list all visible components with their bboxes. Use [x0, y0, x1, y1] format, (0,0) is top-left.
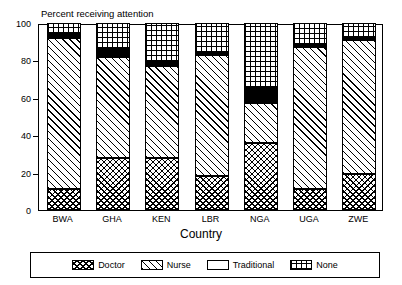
x-axis-title: Country	[0, 227, 402, 241]
y-tick-label: 80	[0, 57, 31, 66]
bar-segment-traditional	[47, 34, 81, 38]
chart-figure: Percent receiving attention 020406080100…	[0, 0, 402, 285]
bar-segment-traditional	[244, 88, 278, 103]
chart-legend: DoctorNurseTraditionalNone	[30, 252, 380, 278]
legend-label-nurse: Nurse	[167, 260, 191, 270]
bar-segment-doctor	[145, 158, 179, 210]
bar-segment-nurse	[293, 47, 327, 189]
bar-segment-traditional	[293, 45, 327, 47]
legend-swatch-none	[290, 260, 312, 270]
chart-title: Percent receiving attention	[41, 8, 153, 19]
bar-segment-nurse	[195, 55, 229, 177]
bar-segment-none	[342, 23, 376, 38]
bar-segment-none	[96, 23, 130, 49]
bar-segment-doctor	[96, 158, 130, 210]
bar-segment-doctor	[293, 189, 327, 210]
y-tick-label: 60	[0, 94, 31, 103]
bar-segment-doctor	[342, 174, 376, 210]
bar-nga	[244, 25, 278, 210]
bar-uga	[293, 25, 327, 210]
bar-segment-traditional	[195, 53, 229, 55]
bar-ken	[145, 25, 179, 210]
bar-segment-nurse	[342, 40, 376, 175]
y-tick-label: 100	[0, 20, 31, 29]
legend-swatch-doctor	[72, 260, 94, 270]
y-tick-label: 0	[0, 207, 31, 216]
x-tick-label-zwe: ZWE	[328, 214, 388, 224]
legend-item-doctor: Doctor	[72, 260, 125, 270]
plot-frame	[38, 24, 383, 211]
bar-segment-nurse	[47, 38, 81, 189]
bar-lbr	[195, 25, 229, 210]
y-tick-label: 40	[0, 132, 31, 141]
bar-segment-none	[195, 23, 229, 53]
bar-segment-doctor	[244, 143, 278, 210]
bar-segment-nurse	[244, 103, 278, 142]
bar-segment-traditional	[145, 62, 179, 66]
bar-zwe	[342, 25, 376, 210]
bar-segment-nurse	[145, 66, 179, 158]
bar-segment-none	[244, 23, 278, 88]
bar-segment-nurse	[96, 57, 130, 158]
y-tick-label: 20	[0, 169, 31, 178]
legend-item-none: None	[290, 260, 338, 270]
legend-label-doctor: Doctor	[98, 260, 125, 270]
bar-segment-traditional	[342, 38, 376, 40]
legend-label-none: None	[316, 260, 338, 270]
bar-segment-doctor	[47, 189, 81, 210]
bar-gha	[96, 25, 130, 210]
bar-segment-none	[293, 23, 327, 45]
bar-segment-doctor	[195, 176, 229, 210]
legend-swatch-traditional	[207, 260, 229, 270]
bar-segment-none	[47, 23, 81, 34]
bar-segment-traditional	[96, 49, 130, 56]
plot-area	[39, 25, 382, 210]
legend-item-nurse: Nurse	[141, 260, 191, 270]
legend-swatch-nurse	[141, 260, 163, 270]
bar-bwa	[47, 25, 81, 210]
legend-label-traditional: Traditional	[233, 260, 275, 270]
bar-segment-none	[145, 23, 179, 62]
legend-item-traditional: Traditional	[207, 260, 275, 270]
